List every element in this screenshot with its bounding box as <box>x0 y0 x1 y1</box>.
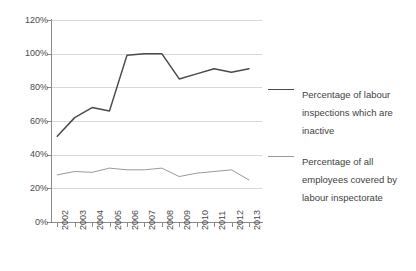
y-tick-label: 60% <box>4 117 48 126</box>
legend-label: Percentage of labour inspections which a… <box>302 89 393 136</box>
x-tick-mark <box>232 222 233 227</box>
x-tick-label: 2007 <box>148 210 157 230</box>
x-tick-mark <box>249 222 250 227</box>
x-tick-mark <box>214 222 215 227</box>
grid-line <box>52 54 262 55</box>
y-tick-label: 40% <box>4 150 48 159</box>
x-tick-label: 2009 <box>183 210 192 230</box>
x-tick-label: 2010 <box>201 210 210 230</box>
chart-legend: Percentage of labour inspections which a… <box>268 84 414 218</box>
y-tick-label: 20% <box>4 184 48 193</box>
x-tick-mark <box>127 222 128 227</box>
x-tick-mark <box>179 222 180 227</box>
grid-line <box>52 87 262 88</box>
x-tick-label: 2002 <box>61 210 70 230</box>
x-tick-mark <box>57 222 58 227</box>
grid-line <box>52 188 262 189</box>
y-axis-line <box>51 19 52 223</box>
grid-line <box>52 20 262 21</box>
line-chart: 0%20%40%60%80%100%120% 20022003200420052… <box>0 0 416 271</box>
x-tick-label: 2012 <box>236 210 245 230</box>
y-tick-label: 120% <box>4 16 48 25</box>
x-tick-label: 2013 <box>253 210 262 230</box>
legend-entry[interactable]: Percentage of labour inspections which a… <box>268 84 414 138</box>
y-tick-label: 0% <box>4 218 48 227</box>
legend-swatch-icon <box>268 156 294 157</box>
grid-line <box>52 155 262 156</box>
x-tick-label: 2011 <box>218 211 227 230</box>
x-tick-mark <box>197 222 198 227</box>
y-tick-label: 80% <box>4 83 48 92</box>
x-tick-label: 2003 <box>79 210 88 230</box>
legend-swatch-icon <box>268 89 294 90</box>
x-tick-mark <box>92 222 93 227</box>
grid-line <box>52 121 262 122</box>
x-tick-label: 2008 <box>166 210 175 230</box>
legend-entry[interactable]: Percentage of all employees covered by l… <box>268 151 414 205</box>
legend-label: Percentage of all employees covered by l… <box>302 156 397 203</box>
x-tick-mark <box>75 222 76 227</box>
x-tick-mark <box>162 222 163 227</box>
x-tick-mark <box>144 222 145 227</box>
x-tick-label: 2004 <box>96 210 105 230</box>
x-tick-label: 2006 <box>131 210 140 230</box>
x-tick-mark <box>110 222 111 227</box>
plot-area <box>52 20 262 222</box>
y-tick-label: 100% <box>4 49 48 58</box>
x-tick-label: 2005 <box>114 210 123 230</box>
